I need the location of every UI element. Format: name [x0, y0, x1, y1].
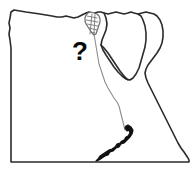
map-canvas: ? [0, 0, 194, 170]
question-mark-marker: ? [72, 36, 88, 66]
country-border-path [9, 10, 189, 162]
egypt-outline-map-figure: ? [0, 0, 194, 170]
